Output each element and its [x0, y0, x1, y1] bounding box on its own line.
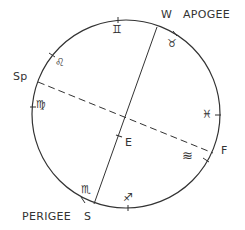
label-apogee: APOGEE: [183, 9, 230, 20]
aquarius-icon: ≋: [182, 149, 192, 162]
label-sp: Sp: [13, 71, 28, 82]
label-perigee: PERIGEE: [22, 211, 71, 222]
orbit-diagram: W APOGEE Sp F E PERIGEE S ♊ ♉ ♌ ♍ ♓ ≋ ♏ …: [0, 0, 245, 230]
taurus-icon: ♉: [167, 38, 177, 49]
tick-marks: [30, 17, 221, 211]
pisces-icon: ♓: [202, 109, 212, 120]
label-e: E: [125, 137, 132, 148]
e-marker-tick: [116, 135, 122, 137]
scorpio-icon: ♏: [81, 184, 91, 195]
sagittarius-icon: ♐: [123, 192, 133, 203]
apsidal-line: [94, 27, 157, 204]
label-s: S: [84, 211, 91, 222]
label-w: W: [161, 9, 172, 20]
leo-icon: ♌: [55, 57, 65, 68]
virgo-icon: ♍: [36, 99, 46, 110]
gemini-icon: ♊: [112, 24, 122, 35]
label-f: F: [221, 145, 228, 156]
